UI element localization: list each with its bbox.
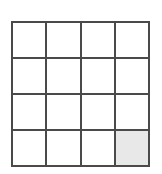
grid-figure [11,21,150,167]
grid-cell-r3-c2[interactable] [47,95,79,129]
grid-cell-r2-c1[interactable] [13,59,45,93]
grid-cell-r1-c2[interactable] [47,23,79,57]
grid-cell-r1-c4[interactable] [116,23,148,57]
grid-cell-r2-c3[interactable] [82,59,114,93]
grid-cell-r4-c4[interactable] [116,131,148,165]
grid-cell-r3-c3[interactable] [82,95,114,129]
grid-cell-r1-c3[interactable] [82,23,114,57]
grid-cell-r3-c4[interactable] [116,95,148,129]
grid-cell-r3-c1[interactable] [13,95,45,129]
grid-cell-r4-c1[interactable] [13,131,45,165]
grid-cell-r4-c3[interactable] [82,131,114,165]
grid-cell-r2-c2[interactable] [47,59,79,93]
grid-cell-r4-c2[interactable] [47,131,79,165]
grid-cell-r2-c4[interactable] [116,59,148,93]
grid-cell-r1-c1[interactable] [13,23,45,57]
